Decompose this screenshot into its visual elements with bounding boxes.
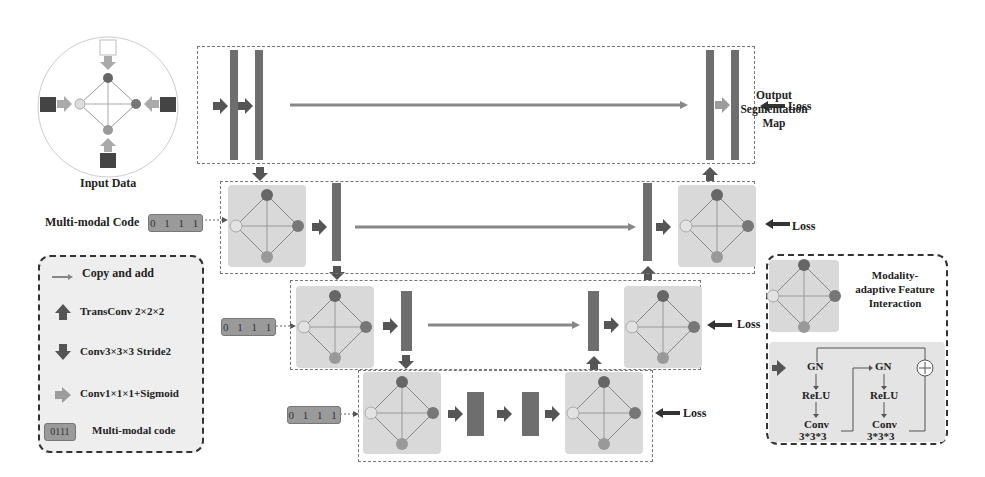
- legend-conv-stride-label: Conv3×3×3 Stride2: [80, 345, 171, 357]
- residual-connector-lines: [769, 342, 945, 442]
- decoder-bar-0a: [706, 50, 714, 160]
- mafi-graph-icon: [624, 286, 702, 368]
- copy-add-arrow-icon: [50, 270, 74, 284]
- mafi-residual-block: GN ReLU Conv 3*3*3 GN ReLU Conv 3*3*3: [769, 342, 945, 442]
- mafi-title-line1: Modality-: [843, 268, 947, 282]
- legend-conv1-sigmoid-label: Conv1×1×1+Sigmoid: [80, 387, 179, 399]
- decoder-bar-2: [588, 291, 599, 351]
- bottleneck-bar-b: [522, 392, 539, 436]
- mafi-block-bottleneck-dec: [565, 372, 643, 454]
- legend-copy-add-label: Copy and add: [82, 266, 154, 281]
- mafi-block-enc-2: [296, 286, 374, 368]
- loss-label-level-1: Loss: [792, 219, 815, 234]
- mafi-legend-graph: [769, 260, 839, 332]
- mafi-graph-icon: [678, 185, 756, 267]
- legend-multimodal-code-label: Multi-modal code: [92, 424, 175, 436]
- block2-gn: GN: [875, 360, 892, 372]
- mafi-graph-icon: [363, 372, 441, 454]
- output-label-line3: Map: [738, 116, 810, 130]
- multimodal-code-chip-3: 0 1 1 1: [287, 406, 341, 424]
- encoder-bar-0a: [230, 50, 238, 160]
- multimodal-code-chip-2: 0 1 1 1: [221, 318, 276, 336]
- loss-label-level-3: Loss: [683, 406, 706, 421]
- mafi-graph-icon: [565, 372, 643, 454]
- encoder-bar-1: [332, 183, 341, 261]
- right-arrow-icon: [54, 386, 72, 404]
- block1-gn: GN: [807, 360, 824, 372]
- loss-label-output: Loss: [788, 99, 811, 114]
- multimodal-code-label: Multi-modal Code: [45, 215, 139, 230]
- mafi-block-bottleneck-enc: [363, 372, 441, 454]
- legend-code-chip: 0111: [44, 423, 76, 441]
- block2-conv: Conv: [872, 418, 897, 430]
- mafi-graph-icon: [769, 260, 839, 332]
- mafi-legend-title: Modality- adaptive Feature Interaction: [843, 268, 947, 310]
- mafi-title-line3: Interaction: [843, 296, 947, 310]
- decoder-bar-1: [643, 183, 652, 261]
- mafi-title-line2: adaptive Feature: [843, 282, 947, 296]
- mafi-graph-icon: [228, 185, 306, 267]
- encoder-bar-2: [401, 291, 412, 351]
- legend-panel: Copy and add TransConv 2×2×2 Conv3×3×3 S…: [38, 255, 204, 453]
- block1-kernel: 3*3*3: [799, 430, 827, 442]
- up-arrow-icon: [54, 303, 72, 321]
- bottleneck-bar-a: [467, 392, 484, 436]
- block1-conv: Conv: [804, 418, 829, 430]
- legend-transconv-label: TransConv 2×2×2: [80, 305, 164, 317]
- mafi-block-dec-1: [678, 185, 756, 267]
- encoder-bar-0b: [255, 50, 263, 160]
- block2-relu: ReLU: [870, 389, 898, 401]
- mafi-block-enc-1: [228, 185, 306, 267]
- mafi-legend-panel: Modality- adaptive Feature Interaction G…: [766, 254, 948, 445]
- down-arrow-icon: [54, 343, 72, 361]
- mafi-block-dec-2: [624, 286, 702, 368]
- multimodal-code-chip-1: 0 1 1 1: [148, 214, 203, 232]
- loss-label-level-2: Loss: [737, 317, 760, 332]
- mafi-graph-icon: [296, 286, 374, 368]
- block1-relu: ReLU: [802, 389, 830, 401]
- block2-kernel: 3*3*3: [867, 430, 895, 442]
